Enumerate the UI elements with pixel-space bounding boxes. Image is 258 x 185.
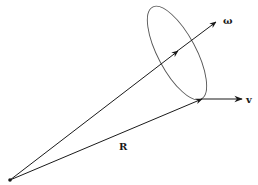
v-label: v [245,94,253,105]
origin-point [8,178,12,182]
r-vector [10,99,202,180]
orbit-ellipse [136,0,218,108]
vector-diagram: ω v R [0,0,258,185]
omega-vector-lower [10,51,178,180]
r-label: R [119,141,128,152]
omega-label: ω [223,15,233,26]
